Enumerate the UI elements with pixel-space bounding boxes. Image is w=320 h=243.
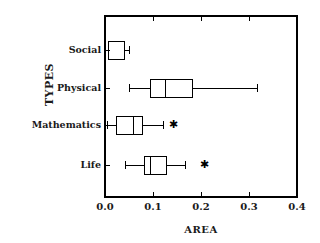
box-social: [109, 41, 124, 59]
x-tick-label-1: 0.1: [133, 201, 173, 213]
box-physical: [150, 79, 193, 97]
outlier-marker-mathematics-0: ✱: [169, 118, 178, 131]
box-mathematics: [116, 116, 143, 134]
y-tick-label-mathematics: Mathematics: [1, 120, 101, 130]
y-tick-label-physical: Physical: [1, 83, 101, 93]
y-tick-label-life: Life: [1, 160, 101, 170]
x-tick-label-3: 0.3: [229, 201, 269, 213]
boxplot-figure: TYPES AREA ✱✱ SocialPhysicalMathematicsL…: [0, 0, 320, 243]
y-tick-label-social: Social: [1, 45, 101, 55]
x-tick-label-0: 0.0: [85, 201, 125, 213]
x-tick-label-4: 0.4: [277, 201, 317, 213]
box-life: [145, 156, 167, 174]
x-tick-label-2: 0.2: [181, 201, 221, 213]
outlier-marker-life-0: ✱: [200, 158, 209, 171]
